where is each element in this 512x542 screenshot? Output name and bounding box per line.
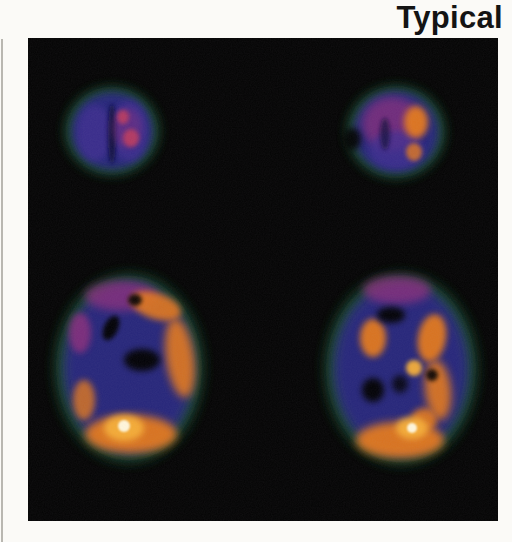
figure-label: Typical	[396, 0, 503, 36]
pet-figure-page: Typical	[0, 0, 512, 542]
column-rule	[1, 39, 3, 542]
pet-scan-panel	[28, 38, 498, 521]
film-grain-overlay	[28, 38, 498, 521]
